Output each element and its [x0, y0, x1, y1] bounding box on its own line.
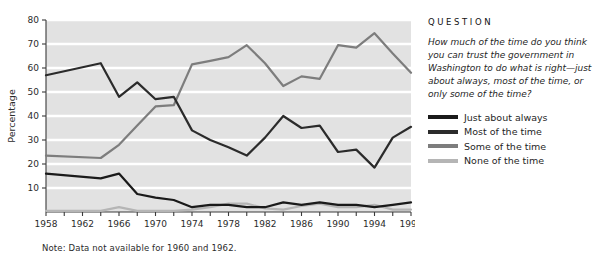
x-tick-label: 1978 — [217, 219, 240, 229]
question-heading: QUESTION — [428, 17, 493, 27]
y-tick-label: 30 — [28, 135, 40, 145]
line-chart-plot: 1020304050607080Percentage19581962196619… — [0, 0, 415, 240]
y-tick-label: 60 — [28, 63, 40, 73]
legend-label: Some of the time — [464, 142, 546, 152]
chart-panel: 1020304050607080Percentage19581962196619… — [0, 0, 415, 267]
y-tick-label: 40 — [28, 111, 40, 121]
legend-swatch-icon — [428, 159, 458, 163]
y-tick-label: 50 — [28, 87, 40, 97]
chart-figure: 1020304050607080Percentage19581962196619… — [0, 0, 596, 267]
x-tick-label: 1994 — [363, 219, 386, 229]
x-tick-label: 1970 — [144, 219, 167, 229]
legend-label: None of the time — [464, 156, 544, 166]
x-tick-label: 1998 — [400, 219, 415, 229]
legend-item[interactable]: None of the time — [428, 154, 594, 169]
y-tick-label: 20 — [28, 159, 40, 169]
legend-label: Just about always — [464, 113, 548, 123]
chart-legend: Just about alwaysMost of the timeSome of… — [428, 110, 594, 168]
y-tick-label: 10 — [28, 183, 40, 193]
x-tick-label: 1958 — [35, 219, 58, 229]
legend-swatch-icon — [428, 130, 458, 134]
y-axis-title: Percentage — [6, 89, 17, 143]
x-tick-label: 1966 — [108, 219, 131, 229]
x-tick-label: 1982 — [254, 219, 277, 229]
y-tick-label: 80 — [28, 15, 40, 25]
x-tick-label: 1990 — [327, 219, 350, 229]
x-tick-label: 1974 — [181, 219, 204, 229]
chart-note: Note: Data not available for 1960 and 19… — [42, 243, 237, 253]
legend-item[interactable]: Just about always — [428, 110, 594, 125]
question-text: How much of the time do you think you ca… — [428, 36, 594, 101]
x-tick-label: 1986 — [290, 219, 313, 229]
y-tick-label: 70 — [28, 39, 40, 49]
legend-item[interactable]: Most of the time — [428, 125, 594, 140]
legend-swatch-icon — [428, 144, 458, 148]
legend-swatch-icon — [428, 115, 458, 119]
x-tick-label: 1962 — [71, 219, 94, 229]
legend-item[interactable]: Some of the time — [428, 139, 594, 154]
question-legend-panel: QUESTION How much of the time do you thi… — [428, 0, 596, 267]
legend-label: Most of the time — [464, 127, 542, 137]
